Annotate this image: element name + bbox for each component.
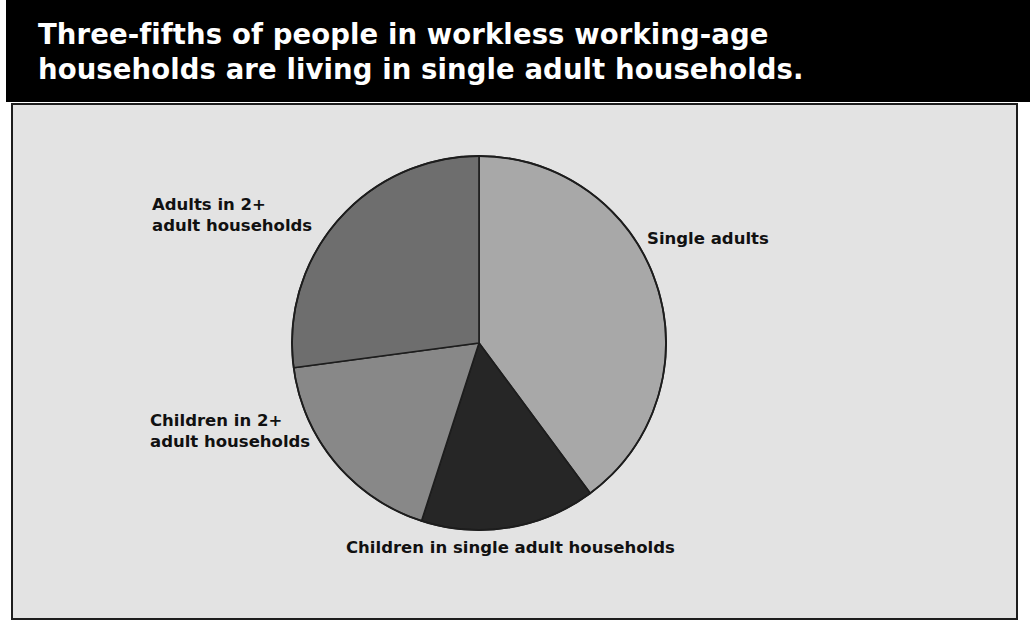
title-banner: Three-fifths of people in workless worki… bbox=[6, 0, 1030, 102]
chart-figure: Three-fifths of people in workless worki… bbox=[0, 0, 1030, 629]
pie-label-children-in-2plus-adult-households: Children in 2+ adult households bbox=[150, 410, 310, 452]
pie-label-single-adults: Single adults bbox=[647, 228, 769, 249]
chart-title: Three-fifths of people in workless worki… bbox=[38, 17, 998, 87]
pie-label-adults-in-2plus-adult-households: Adults in 2+ adult households bbox=[152, 194, 312, 236]
pie-slice-group bbox=[292, 156, 666, 530]
chart-panel: Adults in 2+ adult households Single adu… bbox=[11, 103, 1018, 620]
pie-slice-3 bbox=[292, 156, 479, 368]
pie-label-children-in-single-adult-households: Children in single adult households bbox=[346, 537, 675, 558]
